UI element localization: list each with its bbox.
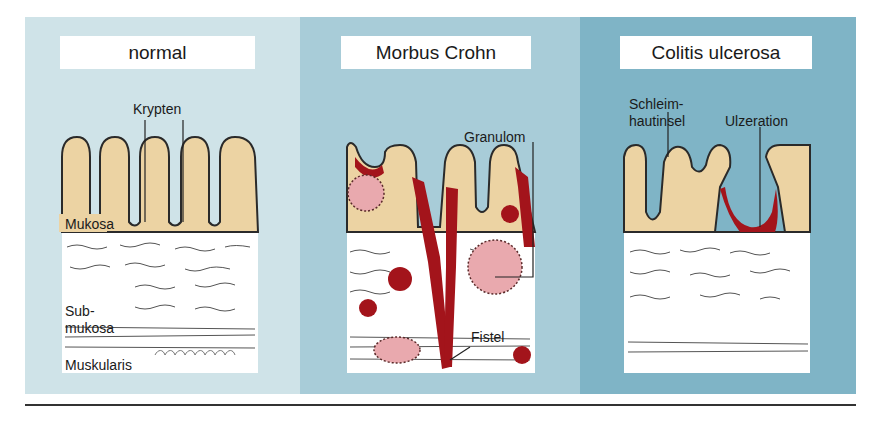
panel-morbus-crohn: Morbus Crohn Granulom Fistel bbox=[300, 17, 580, 394]
label-fistel: Fistel bbox=[471, 329, 504, 345]
label-schleimhautinsel-line1: Schleim- bbox=[629, 96, 683, 112]
normal-tissue-illustration bbox=[25, 17, 300, 394]
label-ulzeration: Ulzeration bbox=[725, 113, 788, 129]
panel-normal: normal Krypten Mukosa Sub- mukosa Muskul… bbox=[25, 17, 300, 394]
label-mukosa: Mukosa bbox=[65, 216, 114, 232]
label-muskularis: Muskularis bbox=[65, 357, 132, 373]
label-granulom: Granulom bbox=[464, 129, 525, 145]
crohn-tissue-illustration bbox=[300, 17, 580, 394]
label-submukosa-line2: mukosa bbox=[65, 320, 114, 336]
colitis-tissue-illustration bbox=[580, 17, 856, 394]
label-submukosa-line1: Sub- bbox=[65, 303, 95, 319]
label-schleimhautinsel-line2: hautinsel bbox=[629, 113, 685, 129]
bottom-divider bbox=[25, 404, 856, 406]
panel-colitis-ulcerosa: Colitis ulcerosa Schleim- hautinsel Ulze… bbox=[580, 17, 856, 394]
label-krypten: Krypten bbox=[133, 101, 181, 117]
